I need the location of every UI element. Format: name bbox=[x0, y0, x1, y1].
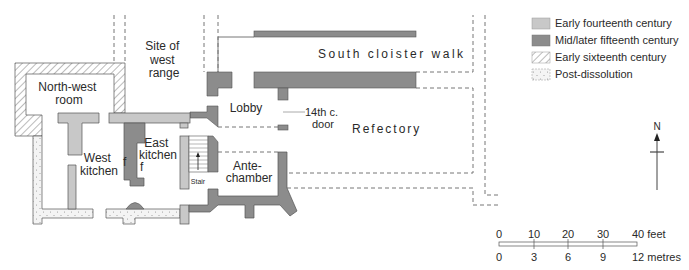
floor-plan: Site of west range North-west room West … bbox=[0, 0, 689, 270]
svg-text:9: 9 bbox=[600, 251, 606, 263]
svg-text:West kitchen: West kitchen bbox=[80, 151, 118, 178]
svg-text:40 feet: 40 feet bbox=[632, 228, 666, 240]
svg-text:12 metres: 12 metres bbox=[632, 251, 681, 263]
svg-text:0: 0 bbox=[496, 228, 502, 240]
north-arrow-icon bbox=[654, 133, 660, 141]
room-labels: Site of west range North-west room West … bbox=[38, 39, 465, 185]
stair bbox=[189, 136, 218, 172]
legend-label: Post-dissolution bbox=[555, 68, 633, 80]
north-arrow: N bbox=[650, 121, 664, 190]
svg-text:Ante- chamber: Ante- chamber bbox=[226, 159, 273, 185]
svg-text:6: 6 bbox=[565, 251, 571, 263]
legend-label: Mid/later fifteenth century bbox=[555, 34, 679, 46]
legend-swatch-early-14th bbox=[532, 18, 550, 29]
svg-text:20: 20 bbox=[562, 228, 574, 240]
legend-label: Early sixteenth century bbox=[555, 51, 667, 63]
legend: Early fourteenth century Mid/later fifte… bbox=[532, 17, 679, 80]
svg-text:30: 30 bbox=[597, 228, 609, 240]
svg-text:Stair: Stair bbox=[191, 178, 206, 185]
svg-text:Lobby: Lobby bbox=[230, 101, 263, 115]
legend-swatch-early-16th bbox=[532, 52, 550, 63]
svg-text:North-west room: North-west room bbox=[38, 80, 99, 107]
legend-swatch-post-dissolution bbox=[532, 69, 550, 80]
svg-text:f: f bbox=[140, 160, 144, 174]
svg-text:Refectory: Refectory bbox=[352, 122, 421, 136]
svg-text:3: 3 bbox=[531, 251, 537, 263]
svg-text:0: 0 bbox=[496, 251, 502, 263]
svg-text:South cloister walk: South cloister walk bbox=[318, 47, 466, 61]
legend-swatch-mid-15th bbox=[532, 35, 550, 46]
legend-label: Early fourteenth century bbox=[555, 17, 672, 29]
svg-text:Site of west range: Site of west range bbox=[145, 39, 182, 80]
svg-text:14th c. door: 14th c. door bbox=[305, 106, 341, 130]
svg-text:East kitchen: East kitchen bbox=[139, 136, 177, 162]
south-cloister-walk bbox=[207, 31, 416, 100]
scale-bar: 0 10 20 30 40 feet 0 3 6 9 12 metres bbox=[496, 228, 681, 263]
svg-text:10: 10 bbox=[528, 228, 540, 240]
svg-text:N: N bbox=[653, 121, 660, 132]
